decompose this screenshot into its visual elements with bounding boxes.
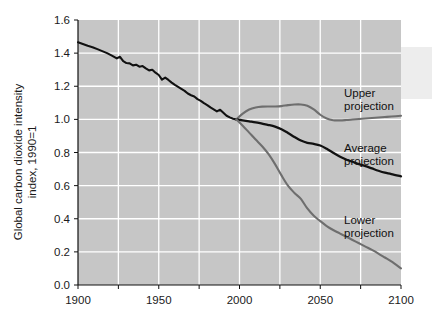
annotation-lower-line1: Lower (344, 214, 375, 226)
annotation-average-projection: Average projection (344, 142, 394, 167)
x-tick-label: 1900 (65, 294, 91, 306)
y-tick-label: 0.0 (54, 279, 70, 291)
annotation-average-line1: Average (344, 142, 387, 154)
y-tick-label: 1.6 (54, 14, 70, 26)
y-axis-title-line2: index, 1990=1 (26, 126, 38, 199)
y-tick-label: 1.0 (54, 113, 70, 125)
y-tick-label: 1.2 (54, 80, 70, 92)
x-tick-label: 1950 (146, 294, 172, 306)
y-tick-label: 0.8 (54, 147, 70, 159)
y-axis-tick-labels: 0.00.20.40.60.81.01.21.41.6 (54, 14, 71, 291)
x-tick-label: 2100 (388, 294, 414, 306)
y-tick-label: 0.4 (54, 213, 71, 225)
y-tick-label: 1.4 (54, 47, 71, 59)
y-tick-label: 0.6 (54, 180, 70, 192)
co2-intensity-line-chart: 19001950200020502100 0.00.20.40.60.81.01… (0, 0, 432, 315)
annotation-lower-line2: projection (344, 227, 394, 239)
annotation-upper-line2: projection (344, 100, 394, 112)
y-tick-label: 0.2 (54, 246, 70, 258)
chart-container: 19001950200020502100 0.00.20.40.60.81.01… (0, 0, 432, 315)
x-tick-label: 2000 (227, 294, 253, 306)
x-tick-label: 2050 (307, 294, 333, 306)
annotation-upper-line1: Upper (344, 87, 375, 99)
annotation-average-line2: projection (344, 155, 394, 167)
y-axis-title-line1: Global carbon dioxide intensity (12, 83, 24, 240)
scan-artifact-overlay (401, 47, 432, 99)
